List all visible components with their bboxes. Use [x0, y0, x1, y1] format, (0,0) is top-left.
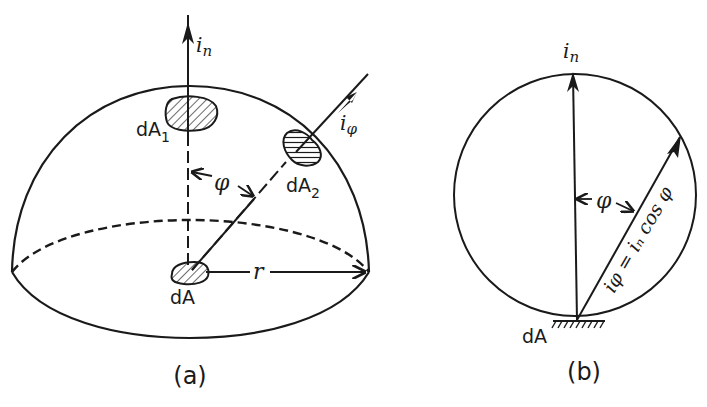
- surface-hatch-b: [552, 321, 604, 328]
- area-element-1: [166, 96, 218, 130]
- panel-a: in iφ dA1 dA2 dA φ r (a): [12, 15, 369, 390]
- caption-a: (a): [173, 362, 206, 390]
- angle-vector-b: [577, 137, 680, 320]
- caption-b: (b): [567, 358, 601, 386]
- panel-b: in φ iφ = iₙ cos φ dA (b): [454, 39, 696, 386]
- phi-arrow-b-right: [616, 203, 633, 211]
- label-dA1: dA1: [136, 118, 170, 145]
- label-dA-center: dA: [170, 286, 195, 308]
- label-r: r: [253, 259, 265, 284]
- normal-vector-b: [573, 74, 577, 320]
- lambert-cosine-law-figure: in iφ dA1 dA2 dA φ r (a): [0, 0, 707, 407]
- label-dA2: dA2: [286, 174, 320, 201]
- area-element-center: [172, 262, 209, 284]
- label-iphi-a: iφ: [340, 111, 357, 138]
- angle-line-solid-lower: [192, 199, 254, 270]
- label-dA-b: dA: [522, 325, 547, 347]
- label-phi-b: φ: [596, 188, 612, 213]
- phi-arrow-right: [238, 186, 253, 196]
- label-in-b: in: [563, 39, 579, 66]
- label-phi-a: φ: [214, 170, 230, 195]
- label-in-a: in: [196, 33, 212, 60]
- phi-arrow-left: [192, 172, 212, 176]
